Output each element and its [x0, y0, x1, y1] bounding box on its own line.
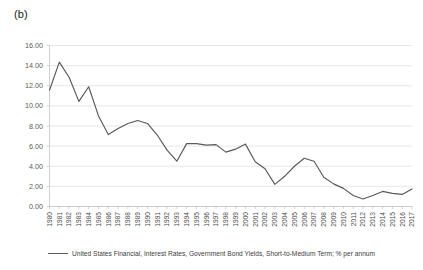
y-axis-tick-label: 0.00 — [29, 202, 43, 211]
y-axis-tick-label: 2.00 — [29, 182, 43, 191]
y-axis-tick-label: 4.00 — [29, 162, 43, 171]
x-axis-tick-label: 2014 — [379, 212, 386, 227]
data-series-line — [50, 62, 413, 199]
legend-entry-label: United States Financial, Interest Rates,… — [72, 250, 375, 257]
x-axis-tick-label: 1987 — [114, 212, 121, 227]
x-axis-tick-label: 1985 — [95, 212, 102, 227]
gridlines — [47, 46, 413, 207]
x-axis-tick-label: 1994 — [183, 212, 190, 227]
y-axis-tick-label: 12.00 — [25, 81, 43, 90]
x-axis-tick-label: 2009 — [330, 212, 337, 227]
x-axis-tick-label: 1992 — [163, 212, 170, 227]
x-axis-tick-label: 2003 — [271, 212, 278, 227]
x-axis-tick-label: 2017 — [408, 212, 415, 227]
x-axis-tick-labels: 1980198119821983198419851986198719881989… — [46, 212, 416, 227]
y-axis-tick-label: 6.00 — [29, 142, 43, 151]
x-axis-tick-label: 2012 — [359, 212, 366, 227]
x-axis-tick-label: 1996 — [203, 212, 210, 227]
x-axis-tick-label: 1986 — [105, 212, 112, 227]
x-axis-tick-label: 2011 — [350, 212, 357, 227]
line-chart-svg: 0.002.004.006.008.0010.0012.0014.0016.00… — [0, 0, 423, 270]
x-axis-tick-label: 1989 — [134, 212, 141, 227]
x-axis-tick-label: 1997 — [212, 212, 219, 227]
x-axis-tick-label: 2005 — [291, 212, 298, 227]
x-axis-tick-label: 1981 — [56, 212, 63, 227]
y-axis-tick-label: 10.00 — [25, 101, 43, 110]
x-axis-tick-label: 1993 — [173, 212, 180, 227]
x-axis-tick-label: 1982 — [65, 212, 72, 227]
x-axis-tick-label: 1983 — [75, 212, 82, 227]
x-axis-tick-label: 1995 — [193, 212, 200, 227]
x-axis-tick-label: 1991 — [154, 212, 161, 227]
y-axis-tick-label: 8.00 — [29, 122, 43, 131]
y-axis-tick-labels: 0.002.004.006.008.0010.0012.0014.0016.00 — [25, 41, 43, 211]
x-axis-tick-label: 2002 — [261, 212, 268, 227]
x-axis-tick-label: 2000 — [242, 212, 249, 227]
x-axis-tick-label: 2016 — [399, 212, 406, 227]
y-axis-tick-label: 16.00 — [25, 41, 43, 50]
x-axis-tick-label: 1980 — [46, 212, 53, 227]
x-axis-tick-label: 1984 — [85, 212, 92, 227]
x-axis-tick-label: 1988 — [124, 212, 131, 227]
x-axis-tick-label: 2008 — [320, 212, 327, 227]
x-axis-tick-label: 1999 — [232, 212, 239, 227]
chart-legend: United States Financial, Interest Rates,… — [0, 250, 423, 257]
x-axis-tick-label: 2013 — [369, 212, 376, 227]
x-axis-tick-label: 1998 — [222, 212, 229, 227]
x-axis-tick-label: 2015 — [389, 212, 396, 227]
x-axis-tick-label: 2007 — [310, 212, 317, 227]
x-axis-tick-label: 2001 — [252, 212, 259, 227]
data-series-lines — [50, 62, 413, 199]
legend-line-swatch — [48, 253, 68, 254]
y-axis-tick-label: 14.00 — [25, 61, 43, 70]
figure-panel-b: (b) 0.002.004.006.008.0010.0012.0014.001… — [0, 0, 423, 270]
x-axis-tick-label: 2010 — [340, 212, 347, 227]
chart-plot-area: 0.002.004.006.008.0010.0012.0014.0016.00… — [0, 0, 423, 270]
x-axis-tick-label: 2004 — [281, 212, 288, 227]
x-axis-tick-label: 1990 — [144, 212, 151, 227]
x-axis-tick-label: 2006 — [301, 212, 308, 227]
